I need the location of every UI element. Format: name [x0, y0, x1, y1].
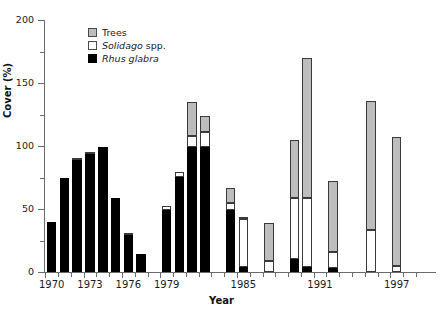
bar-segment-rhus-1989: [290, 259, 300, 272]
legend-label-solidago-suffix: spp.: [143, 40, 166, 51]
legend-item-rhus[interactable]: Rhus glabra: [88, 52, 166, 65]
bar-segment-solidago-1984: [226, 203, 236, 211]
bar-segment-solidago-1992: [328, 252, 338, 268]
x-tick-1986: [250, 273, 251, 277]
x-tick-1990: [301, 273, 302, 277]
bar-1995[interactable]: [366, 101, 376, 272]
bar-1972[interactable]: [72, 159, 82, 272]
bar-segment-trees-1990: [302, 58, 312, 198]
x-tick-1974: [96, 273, 97, 277]
x-tick-1975: [109, 273, 110, 277]
solidago-swatch: [88, 41, 97, 50]
bar-segment-trees-1984: [226, 188, 236, 203]
bar-1974[interactable]: [98, 147, 108, 272]
bar-segment-trees-1981: [187, 102, 197, 136]
x-tick-label-1997: 1997: [384, 279, 409, 290]
bar-1980[interactable]: [175, 172, 185, 272]
bar-segment-rhus-1973: [85, 154, 95, 272]
legend-item-solidago[interactable]: Solidago spp.: [88, 39, 166, 52]
bar-1987[interactable]: [264, 223, 274, 272]
bar-segment-trees-1982: [200, 116, 210, 132]
legend-label-trees: Trees: [102, 27, 127, 38]
x-tick-1978: [148, 273, 149, 277]
x-tick-1991: [314, 273, 315, 278]
bar-segment-solidago-1995: [366, 230, 376, 272]
x-tick-label-1985: 1985: [231, 279, 256, 290]
bar-1997[interactable]: [392, 137, 402, 272]
x-tick-1992: [326, 273, 327, 277]
bar-segment-solidago-1989: [290, 198, 300, 260]
bar-segment-solidago-1980: [175, 172, 185, 177]
x-tick-1998: [403, 273, 404, 277]
bar-1973[interactable]: [85, 152, 95, 272]
bar-segment-trees-1985: [239, 217, 249, 219]
x-tick-1976: [122, 273, 123, 278]
x-tick-1999: [416, 273, 417, 277]
bar-segment-rhus-1981: [187, 147, 197, 272]
bar-1976[interactable]: [124, 233, 134, 272]
bar-1989[interactable]: [290, 140, 300, 272]
x-tick-1985: [237, 273, 238, 278]
bar-segment-rhus-1972: [72, 160, 82, 272]
rhus-swatch: [88, 54, 97, 63]
x-tick-1993: [339, 273, 340, 277]
y-axis-title: Cover (%): [2, 63, 13, 118]
bar-1982[interactable]: [200, 116, 210, 272]
x-tick-1994: [352, 273, 353, 277]
chart-legend: Trees Solidago spp. Rhus glabra: [88, 26, 166, 65]
bar-segment-trees-1992: [328, 181, 338, 252]
legend-label-rhus: Rhus glabra: [102, 53, 159, 64]
bar-1985[interactable]: [239, 218, 249, 272]
legend-item-trees[interactable]: Trees: [88, 26, 166, 39]
x-tick-1980: [173, 273, 174, 277]
bar-segment-solidago-1979: [162, 206, 172, 210]
legend-label-solidago: Solidago spp.: [102, 40, 166, 51]
x-tick-label-1991: 1991: [307, 279, 332, 290]
bar-1970[interactable]: [47, 222, 57, 272]
x-tick-label-1970: 1970: [39, 279, 64, 290]
bar-1979[interactable]: [162, 206, 172, 272]
bar-segment-solidago-1982: [200, 132, 210, 147]
x-tick-1995: [365, 273, 366, 277]
bar-segment-trees-1987: [264, 223, 274, 261]
bar-segment-trees-1997: [392, 137, 402, 266]
bar-segment-trees-1995: [366, 101, 376, 231]
x-axis-title: Year: [0, 295, 443, 306]
x-tick-1989: [288, 273, 289, 277]
bar-1977[interactable]: [136, 254, 146, 272]
figure-canvas: Cover (%) Year 050100150200 197019731976…: [0, 0, 443, 313]
trees-swatch: [88, 28, 97, 37]
x-tick-1984: [224, 273, 225, 277]
bar-segment-rhus-1992: [328, 268, 338, 272]
bar-segment-solidago-1990: [302, 198, 312, 267]
bar-1981[interactable]: [187, 102, 197, 272]
x-tick-1983: [211, 273, 212, 277]
x-tick-1970: [45, 273, 46, 278]
bar-segment-solidago-1981: [187, 136, 197, 147]
y-tick-label-200: 200: [2, 14, 34, 25]
x-tick-1973: [84, 273, 85, 278]
bar-segment-rhus-1977: [136, 254, 146, 272]
bar-segment-trees-1989: [290, 140, 300, 198]
y-tick-label-150: 150: [2, 77, 34, 88]
bar-segment-solidago-1972: [72, 158, 82, 160]
x-tick-label-1979: 1979: [154, 279, 179, 290]
x-tick-1988: [275, 273, 276, 277]
bar-segment-rhus-1979: [162, 210, 172, 272]
y-tick-label-50: 50: [2, 203, 34, 214]
bar-1971[interactable]: [60, 178, 70, 273]
y-tick-0: [38, 272, 44, 273]
bar-segment-solidago-1987: [264, 261, 274, 272]
bar-1975[interactable]: [111, 198, 121, 272]
x-tick-1979: [160, 273, 161, 278]
bar-segment-solidago-1997: [392, 266, 402, 272]
x-tick-1987: [263, 273, 264, 277]
bar-1992[interactable]: [328, 181, 338, 272]
bar-1990[interactable]: [302, 58, 312, 272]
bar-1984[interactable]: [226, 188, 236, 272]
x-tick-1996: [378, 273, 379, 277]
legend-label-solidago-genus: Solidago: [102, 40, 143, 51]
x-tick-label-1976: 1976: [116, 279, 141, 290]
bar-segment-rhus-1985: [239, 267, 249, 272]
bar-segment-rhus-1974: [98, 147, 108, 272]
